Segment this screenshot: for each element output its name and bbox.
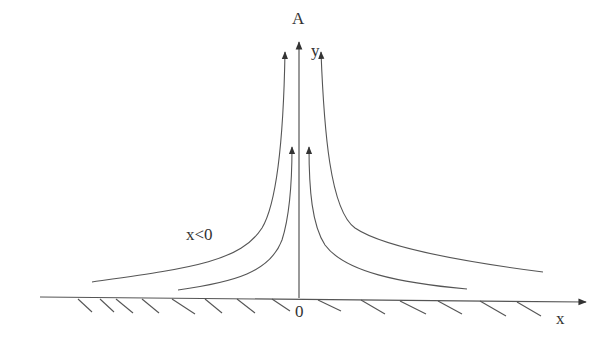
point-a-label: A — [292, 10, 304, 27]
streamline-outer-left — [92, 52, 285, 282]
streamline-diagram: A y x 0 x<0 — [0, 0, 614, 346]
streamline-inner-right — [309, 147, 467, 289]
streamline-outer-right — [321, 52, 543, 272]
diagram-canvas — [0, 0, 614, 346]
streamline-inner-left — [178, 147, 292, 290]
region-label: x<0 — [186, 226, 213, 243]
x-axis-line — [40, 297, 586, 302]
y-axis-label: y — [311, 42, 320, 59]
x-axis-label: x — [556, 310, 565, 327]
origin-label: 0 — [295, 303, 304, 320]
